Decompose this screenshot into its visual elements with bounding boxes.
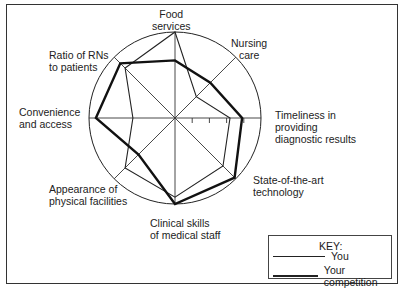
spoke-line xyxy=(114,57,175,118)
axis-label-line: to patients xyxy=(49,61,109,73)
axis-label-line: Appearance of xyxy=(49,183,127,195)
axis-label-line: diagnostic results xyxy=(275,133,356,145)
legend-label-you: You xyxy=(331,250,349,262)
spoke-line xyxy=(175,118,236,179)
axis-label-line: Timeliness in xyxy=(275,109,356,121)
axis-label-line: and access xyxy=(19,118,80,130)
axis-ticks xyxy=(192,118,244,123)
axis-label-timeliness: Timeliness in providing diagnostic resul… xyxy=(275,109,356,145)
axis-label-line: care xyxy=(231,49,267,61)
axis-label-line: services xyxy=(152,20,191,32)
axis-label-nursing: Nursing care xyxy=(231,37,267,61)
axis-label-line: physical facilities xyxy=(49,195,127,207)
axis-label-ratio: Ratio of RNs to patients xyxy=(49,49,109,73)
axis-label-line: of medical staff xyxy=(150,229,220,241)
thin-line-swatch xyxy=(273,256,325,257)
legend-label-competition: Your competition xyxy=(324,264,391,288)
thick-line-swatch xyxy=(273,275,318,277)
axis-label-line: State-of-the-art xyxy=(253,174,324,186)
axis-label-appearance: Appearance of physical facilities xyxy=(49,183,127,207)
axis-label-line: providing xyxy=(275,121,356,133)
axis-label-food: Food services xyxy=(152,8,191,32)
axis-label-line: Clinical skills xyxy=(150,217,220,229)
series-you-polygon xyxy=(125,32,230,197)
axis-label-line: Convenience xyxy=(19,106,80,118)
axis-label-line: Ratio of RNs xyxy=(49,49,109,61)
axis-label-convenience: Convenience and access xyxy=(19,106,80,130)
axis-label-line: technology xyxy=(253,186,324,198)
axis-label-clinical: Clinical skills of medical staff xyxy=(150,217,220,241)
legend-item-you: You xyxy=(273,250,349,262)
axis-label-technology: State-of-the-art technology xyxy=(253,174,324,198)
legend-box: KEY: You Your competition xyxy=(268,235,392,279)
legend-item-competition: Your competition xyxy=(273,264,391,288)
spoke-line xyxy=(114,118,175,179)
axis-label-line: Food xyxy=(152,8,191,20)
axis-label-line: Nursing xyxy=(231,37,267,49)
